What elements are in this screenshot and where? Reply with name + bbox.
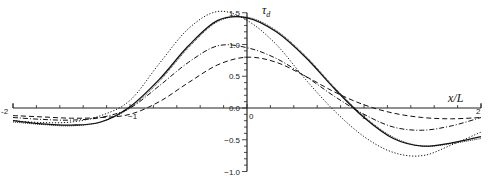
x-axis-label: x/L: [447, 91, 464, 105]
line-chart: -2−10121.51.00.50.0−0.5−1.0 x/L τd: [0, 0, 491, 183]
axes: -2−10121.51.00.50.0−0.5−1.0: [1, 9, 481, 177]
x-tick-label: 0: [249, 112, 254, 121]
y-tick-label: 0.0: [229, 104, 241, 113]
x-tick-label: -2: [1, 107, 9, 116]
y-tick-label: 0.5: [229, 72, 241, 81]
x-tick-label: 2: [476, 107, 481, 116]
y-tick-label: −1.0: [224, 168, 240, 177]
y-axis-label: τd: [262, 3, 271, 19]
y-tick-label: −0.5: [224, 136, 240, 145]
